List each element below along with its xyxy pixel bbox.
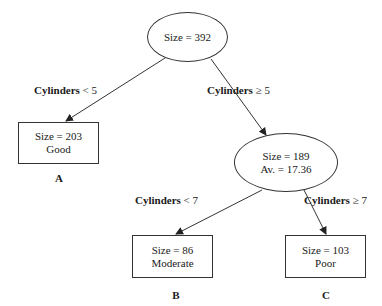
edge-root-to-internal (211, 59, 266, 135)
edge-label-cylinders-lt-5: Cylinders < 5 (34, 84, 97, 96)
root-node: Size = 392 (147, 12, 228, 62)
leaf-node-c: Size = 103 Poor (285, 235, 366, 278)
leaf-node-b: Size = 86 Moderate (132, 235, 213, 278)
leaf-node-a: Size = 203 Good (18, 122, 99, 164)
edge-label-cylinders-lt-7: Cylinders < 7 (135, 194, 198, 206)
leaf-b-class: Moderate (151, 257, 193, 270)
leaf-a-size: Size = 203 (35, 130, 82, 143)
leaf-c-size: Size = 103 (302, 244, 349, 257)
leaf-c-class: Poor (315, 257, 336, 270)
internal-node: Size = 189 Av. = 17.36 (234, 133, 338, 192)
leaf-b-size: Size = 86 (152, 244, 194, 257)
root-size: Size = 392 (164, 31, 211, 44)
edge-label-cylinders-ge-7: Cylinders ≥ 7 (304, 194, 367, 206)
leaf-tag-a: A (55, 172, 63, 184)
edge-label-cylinders-ge-5: Cylinders ≥ 5 (207, 84, 270, 96)
internal-average: Av. = 17.36 (260, 163, 311, 176)
internal-size: Size = 189 (262, 150, 309, 163)
leaf-tag-b: B (172, 289, 179, 301)
leaf-tag-c: C (322, 289, 330, 301)
leaf-a-class: Good (46, 143, 70, 156)
